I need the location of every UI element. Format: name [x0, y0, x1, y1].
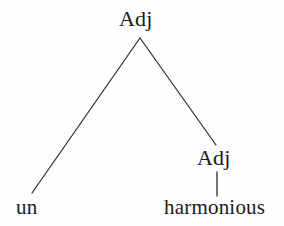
syntax-tree-figure: Adj Adj un harmonious	[0, 0, 284, 226]
terminal-label-un: un	[16, 197, 37, 218]
edge-root-to-un	[32, 38, 140, 193]
edge-root-to-adj	[140, 38, 216, 145]
tree-edges-canvas	[0, 0, 284, 226]
terminal-label-harmonious: harmonious	[164, 197, 265, 218]
node-label-root-adj: Adj	[119, 8, 153, 30]
node-label-adj-right: Adj	[197, 147, 231, 169]
